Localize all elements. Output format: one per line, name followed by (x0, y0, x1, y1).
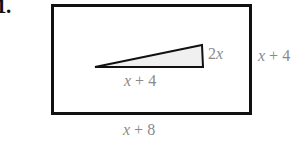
label-rectangle-width-constant: 8 (147, 121, 155, 138)
label-triangle-base-variable: x (124, 72, 131, 89)
label-rectangle-height-constant: 4 (282, 47, 290, 64)
label-rectangle-width-variable: x (123, 121, 130, 138)
label-rectangle-height: x + 4 (258, 48, 290, 64)
label-triangle-base: x + 4 (124, 73, 156, 89)
label-triangle-height-variable: x (216, 45, 223, 62)
label-rectangle-width: x + 8 (123, 122, 155, 138)
label-triangle-height-text: 2 (208, 45, 216, 62)
label-triangle-height: 2x (208, 46, 223, 62)
figure-page: 1. 2x x + 4 x + 4 x + 8 (0, 0, 303, 146)
label-triangle-base-constant: 4 (148, 72, 156, 89)
label-rectangle-height-variable: x (258, 47, 265, 64)
